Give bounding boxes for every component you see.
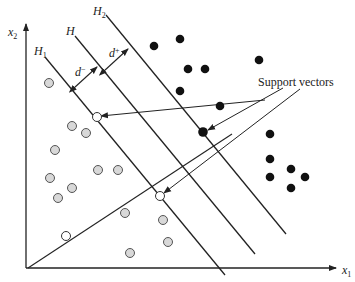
negative-class-points bbox=[45, 79, 173, 258]
svm-diagram: x2 x1 H1 H H2 d− d+ Support vectors bbox=[0, 0, 355, 282]
positive-support-vector bbox=[198, 127, 208, 137]
hyperplane-h1 bbox=[45, 57, 225, 275]
h2-label: H2 bbox=[92, 4, 106, 20]
positive-class-points bbox=[150, 35, 310, 193]
pointer-3 bbox=[164, 89, 300, 193]
h1-label: H1 bbox=[33, 44, 47, 60]
pointer-1 bbox=[101, 100, 265, 116]
d-minus-label: d− bbox=[75, 65, 86, 79]
y-axis-label: x2 bbox=[7, 25, 17, 41]
x-axis-label: x1 bbox=[341, 263, 351, 279]
h-label: H bbox=[65, 24, 76, 38]
hyperplane-h2 bbox=[106, 15, 286, 234]
support-vectors-label: Support vectors bbox=[258, 75, 334, 89]
negative-support-vectors bbox=[62, 113, 165, 241]
